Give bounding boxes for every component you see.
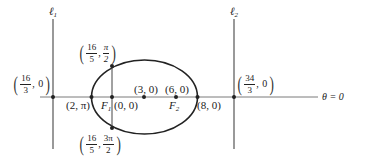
vertex-left-label: (2, π) [66,100,90,111]
directrix-l1-point-label: ( 163 , 0 ) [12,73,52,95]
ellipse-diagram [0,0,367,164]
point-directrix-l2 [232,95,236,99]
focus-2-coord-label: (6, 0) [165,84,189,95]
point-vertex-left [90,95,94,99]
vertex-right-label: (8, 0) [197,100,221,111]
center-label: (3, 0) [134,84,158,95]
latus-top-label: ( 165 , π2 ) [78,42,118,64]
polar-axis-label: θ = 0 [322,92,344,102]
point-center [142,95,146,99]
focus-2-label: F2 [169,100,179,113]
directrix-l2-point-label: ( 343 , 0 ) [236,73,276,95]
point-latus-bottom [110,126,114,130]
latus-bottom-label: ( 165 , 3π2 ) [78,133,122,155]
directrix-l2-label: ℓ2 [230,6,238,19]
directrix-l1-label: ℓ1 [49,6,57,19]
point-directrix-l1 [51,95,55,99]
pole-label: (0, 0) [114,100,138,111]
focus-1-label: F1 [101,100,111,113]
